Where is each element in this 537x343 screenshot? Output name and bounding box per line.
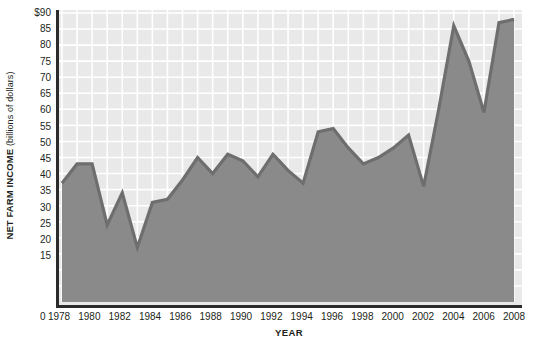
plot-area <box>56 10 522 308</box>
y-tick-label: 55 <box>40 122 51 132</box>
y-tick-label: 40 <box>40 170 51 180</box>
x-tick-label: 2002 <box>412 311 434 323</box>
y-axis-title-main: NET FARM INCOME <box>4 148 15 239</box>
y-tick-label: 65 <box>40 89 51 99</box>
x-tick-label: 1994 <box>291 311 313 323</box>
y-tick-label: 60 <box>40 105 51 115</box>
y-tick-label: 45 <box>40 154 51 164</box>
y-tick-label: 85 <box>40 24 51 34</box>
x-axis-tick-labels: 1978198019821984198619881990199219941996… <box>56 311 526 325</box>
x-tick-label: 1986 <box>169 311 191 323</box>
y-axis-origin-label: 0 <box>40 311 46 323</box>
y-tick-label: 15 <box>40 251 51 261</box>
y-tick-label: 70 <box>40 73 51 83</box>
y-tick-label: 75 <box>40 57 51 67</box>
x-tick-label: 2008 <box>503 311 525 323</box>
y-axis-tick-labels: $90858075706560555045403530252015 <box>18 0 54 320</box>
y-tick-label: 20 <box>40 235 51 245</box>
x-tick-label: 1988 <box>200 311 222 323</box>
y-axis-title-unit: (billions of dollars) <box>5 71 15 146</box>
x-axis-title: YEAR <box>56 327 522 338</box>
x-tick-label: 1980 <box>78 311 100 323</box>
x-tick-label: 1992 <box>260 311 282 323</box>
plot-svg <box>59 10 522 305</box>
x-tick-label: 1982 <box>109 311 131 323</box>
y-axis-title: NET FARM INCOME (billions of dollars) <box>0 0 18 310</box>
y-axis-title-text: NET FARM INCOME (billions of dollars) <box>4 71 15 239</box>
x-tick-label: 1978 <box>48 311 70 323</box>
x-tick-label: 2006 <box>473 311 495 323</box>
x-tick-label: 2004 <box>442 311 464 323</box>
y-tick-label: 30 <box>40 203 51 213</box>
x-tick-label: 1996 <box>321 311 343 323</box>
x-tick-label: 1998 <box>351 311 373 323</box>
y-tick-label: 50 <box>40 138 51 148</box>
x-tick-label: 1990 <box>230 311 252 323</box>
y-tick-label: 35 <box>40 186 51 196</box>
y-tick-label: $90 <box>34 8 51 18</box>
y-tick-label: 25 <box>40 219 51 229</box>
x-tick-label: 2000 <box>382 311 404 323</box>
y-tick-label: 80 <box>40 40 51 50</box>
net-farm-income-chart: NET FARM INCOME (billions of dollars) $9… <box>0 0 537 343</box>
x-tick-label: 1984 <box>139 311 161 323</box>
